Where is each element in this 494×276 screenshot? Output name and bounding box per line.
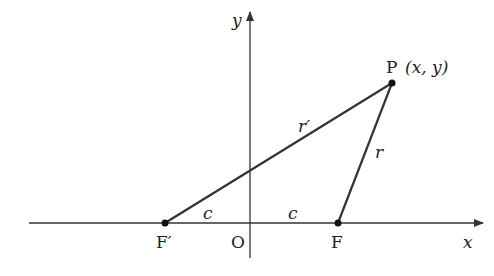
x-axis-label: x <box>463 232 473 252</box>
point-f <box>335 220 342 227</box>
point-p-coords: (x, y) <box>405 57 448 77</box>
y-axis-label: y <box>231 10 242 30</box>
point-f-prime <box>162 220 169 227</box>
point-p-label: P <box>386 57 397 77</box>
ellipse-focus-diagram: y x O P (x, y) F′ F r′ r c c <box>0 0 494 276</box>
origin-label: O <box>231 232 245 252</box>
point-p <box>389 80 396 87</box>
segment-r <box>338 83 392 223</box>
segment-r-label: r <box>375 142 384 162</box>
point-f-prime-label: F′ <box>156 232 172 252</box>
segment-c-left-label: c <box>203 203 213 223</box>
point-f-label: F <box>331 232 343 252</box>
segment-c-right-label: c <box>288 203 298 223</box>
segment-r-prime <box>165 83 392 223</box>
segment-r-prime-label: r′ <box>298 116 310 136</box>
